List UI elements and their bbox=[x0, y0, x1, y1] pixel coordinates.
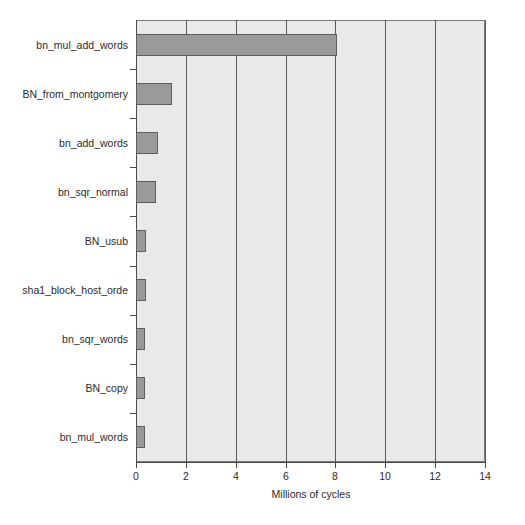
gridline bbox=[236, 20, 237, 462]
y-axis-tick bbox=[130, 315, 136, 316]
x-axis-tick-label: 2 bbox=[183, 470, 189, 482]
plot-area bbox=[136, 20, 485, 462]
y-axis-tick-label: bn_sqr_normal bbox=[0, 186, 137, 198]
y-axis-tick bbox=[130, 413, 136, 414]
bar bbox=[136, 328, 145, 350]
bar bbox=[136, 34, 337, 56]
x-axis-title: Millions of cycles bbox=[136, 488, 486, 500]
y-axis-tick-label: bn_sqr_words bbox=[0, 333, 137, 345]
bar bbox=[136, 181, 156, 203]
y-axis-tick-label: bn_mul_add_words bbox=[0, 39, 137, 51]
y-axis-tick-label: sha1_block_host_orde bbox=[0, 284, 137, 296]
x-axis-tick bbox=[286, 462, 287, 468]
y-axis-tick-label: BN_usub bbox=[0, 235, 137, 247]
y-axis-tick bbox=[130, 167, 136, 168]
y-axis-tick-label: BN_copy bbox=[0, 382, 137, 394]
gridline bbox=[186, 20, 187, 462]
x-axis-tick-label: 6 bbox=[283, 470, 289, 482]
x-axis-tick bbox=[186, 462, 187, 468]
y-axis-tick-label: BN_from_montgomery bbox=[0, 88, 137, 100]
x-axis-tick bbox=[136, 462, 137, 468]
x-axis-tick-label: 14 bbox=[479, 470, 491, 482]
x-axis-line bbox=[136, 462, 486, 463]
bar bbox=[136, 83, 172, 105]
bar bbox=[136, 132, 158, 154]
y-axis-tick bbox=[130, 118, 136, 119]
x-axis-tick-label: 12 bbox=[429, 470, 441, 482]
gridline bbox=[286, 20, 287, 462]
gridline bbox=[385, 20, 386, 462]
x-axis-tick-label: 8 bbox=[332, 470, 338, 482]
x-axis-tick bbox=[435, 462, 436, 468]
y-axis-tick bbox=[130, 69, 136, 70]
bar-chart: bn_mul_add_wordsBN_from_montgomerybn_add… bbox=[0, 0, 525, 525]
gridline bbox=[335, 20, 336, 462]
x-axis-tick-label: 0 bbox=[133, 470, 139, 482]
gridline bbox=[435, 20, 436, 462]
x-axis-tick-label: 4 bbox=[233, 470, 239, 482]
y-axis-tick bbox=[130, 216, 136, 217]
y-axis-tick-label: bn_add_words bbox=[0, 137, 137, 149]
x-axis-tick bbox=[236, 462, 237, 468]
x-axis-tick bbox=[385, 462, 386, 468]
y-axis-tick bbox=[130, 266, 136, 267]
bar bbox=[136, 377, 145, 399]
bar bbox=[136, 426, 145, 448]
bar bbox=[136, 230, 146, 252]
bar bbox=[136, 279, 146, 301]
gridline bbox=[485, 20, 486, 462]
y-axis-tick-label: bn_mul_words bbox=[0, 431, 137, 443]
y-axis-tick bbox=[130, 364, 136, 365]
x-axis-tick bbox=[335, 462, 336, 468]
x-axis-tick-label: 10 bbox=[379, 470, 391, 482]
x-axis-tick bbox=[485, 462, 486, 468]
